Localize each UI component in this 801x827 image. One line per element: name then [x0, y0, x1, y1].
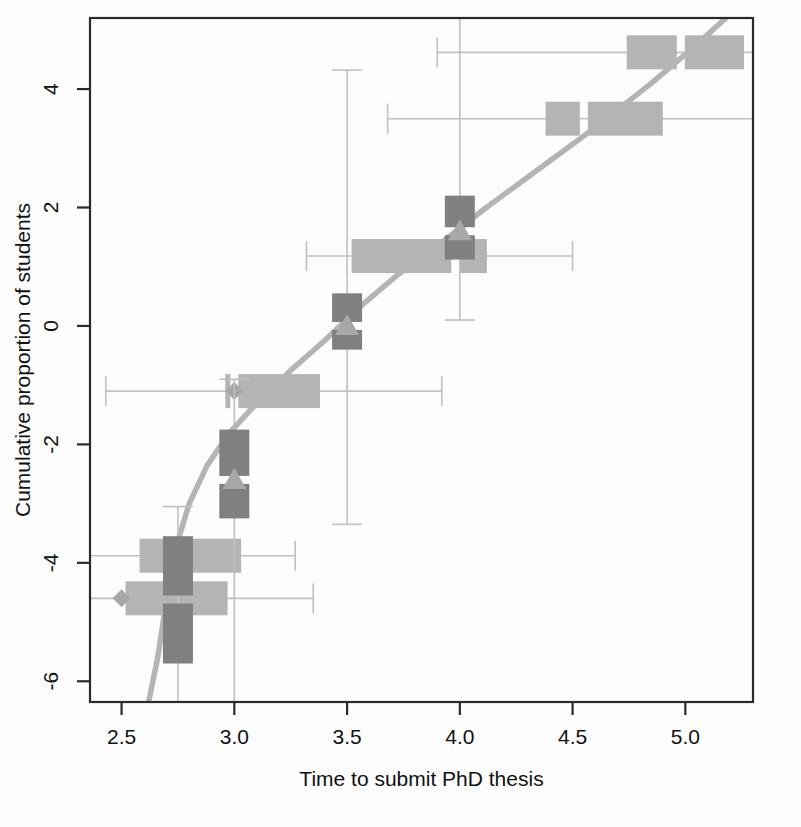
box-h-right	[588, 102, 663, 136]
y-tick-label-3: 0	[39, 320, 62, 332]
box-h-right	[238, 374, 320, 408]
box-h-right	[685, 35, 744, 69]
box-v-upper	[163, 536, 193, 595]
box-h-left	[352, 239, 452, 273]
box-v-lower	[163, 604, 193, 664]
x-tick-label-0: 2.5	[107, 725, 136, 748]
chart-figure: 2.53.03.54.04.55.0-6-4-2024Time to submi…	[0, 0, 801, 827]
x-tick-label-3: 4.0	[445, 725, 474, 748]
probit-plot-canvas: 2.53.03.54.04.55.0-6-4-2024Time to submi…	[0, 0, 801, 827]
y-tick-label-1: -4	[39, 553, 62, 572]
box-h-left	[627, 35, 677, 69]
y-axis-title: Cumulative proportion of students	[11, 203, 34, 517]
y-tick-label-2: -2	[39, 435, 62, 454]
box-h-left	[546, 102, 580, 136]
x-tick-label-2: 3.5	[332, 725, 361, 748]
y-tick-label-5: 4	[39, 83, 62, 95]
y-tick-label-0: -6	[39, 672, 62, 691]
y-tick-label-4: 2	[39, 202, 62, 214]
box-v-lower	[219, 484, 249, 518]
x-tick-label-1: 3.0	[220, 725, 249, 748]
x-tick-label-4: 4.5	[558, 725, 587, 748]
x-tick-label-5: 5.0	[671, 725, 700, 748]
x-axis-title: Time to submit PhD thesis	[299, 767, 543, 790]
